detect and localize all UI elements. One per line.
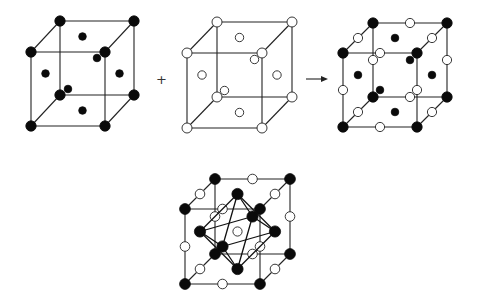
open-atom [353,33,362,42]
filled-atom [391,108,399,116]
open-atom [248,174,258,184]
octahedral-vertex-atom [217,241,228,252]
filled-atom [79,33,87,41]
cube-edge [105,95,134,126]
panel-fcc-open [182,17,297,133]
cube-edge [31,95,60,126]
filled-atom [26,47,36,57]
filled-atom [285,174,296,185]
open-atom [442,55,451,64]
filled-atom [55,90,65,100]
open-atom [368,55,377,64]
open-atom [235,33,243,41]
open-atom [182,48,192,58]
filled-atom [376,86,384,94]
open-atom [375,122,384,131]
open-atom [273,71,281,79]
cube-edge [262,97,292,128]
filled-atom [42,70,50,78]
open-atom [375,48,384,57]
open-atom [338,85,347,94]
open-atom [353,107,362,116]
filled-atom [180,204,191,215]
cube-edge [187,22,217,53]
open-atom [198,71,206,79]
filled-atom [64,85,72,93]
central-open-atom [233,227,242,236]
open-atom [270,264,280,274]
cube-edge [187,97,217,128]
filled-atom [368,18,378,28]
open-atom [182,123,192,133]
open-atom [270,189,280,199]
cube-edge [262,22,292,53]
filled-atom [210,174,221,185]
filled-atom [180,279,191,290]
plus-operator: + [156,72,167,87]
open-atom [195,264,205,274]
filled-atom [338,48,348,58]
filled-atom [442,92,452,102]
octahedral-vertex-atom [232,188,243,199]
octahedral-vertex-atom [232,263,243,274]
filled-atom [442,18,452,28]
open-atom [250,55,258,63]
filled-atom [406,56,414,64]
open-atom [405,92,414,101]
crystal-structure-diagram: + [0,0,477,300]
octahedral-vertex-atom [194,226,205,237]
panel-octahedral-coordination [180,174,296,290]
filled-atom [79,107,87,115]
open-atom [180,242,190,252]
open-atom [218,279,228,289]
open-atom [412,85,421,94]
filled-atom [100,47,110,57]
filled-atom [285,249,296,260]
open-atom [220,86,228,94]
filled-atom [26,121,36,131]
filled-atom [338,122,348,132]
open-atom [405,18,414,27]
open-atom [257,48,267,58]
filled-atom [428,71,436,79]
filled-atom [255,279,266,290]
open-atom [287,92,297,102]
filled-atom [129,90,139,100]
filled-atom [116,70,124,78]
filled-atom [100,121,110,131]
open-atom [235,108,243,116]
open-atom [287,17,297,27]
cube-edge [105,21,134,52]
open-atom [212,17,222,27]
octahedral-vertex-atom [247,211,258,222]
filled-atom [368,92,378,102]
filled-atom [412,48,422,58]
filled-atom [93,54,101,62]
filled-atom [391,34,399,42]
panel-combined-rock-salt [338,18,452,132]
open-atom [195,189,205,199]
open-atom [285,212,295,222]
open-atom [427,107,436,116]
filled-atom [412,122,422,132]
open-atom [212,92,222,102]
open-atom [427,33,436,42]
octahedral-vertex-atom [269,226,280,237]
panel-fcc-filled [26,16,139,131]
arrow-operator [306,76,328,82]
cube-edge [31,21,60,52]
open-atom [257,123,267,133]
filled-atom [129,16,139,26]
filled-atom [354,71,362,79]
filled-atom [55,16,65,26]
